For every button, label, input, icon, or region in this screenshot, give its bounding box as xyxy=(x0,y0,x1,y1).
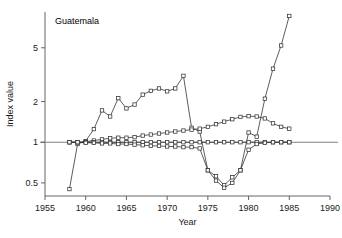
series-steep-rise-point xyxy=(141,93,144,96)
x-axis-label: Year xyxy=(178,217,196,227)
series-flat-unity-point xyxy=(214,141,217,144)
series-moderate-rise-point xyxy=(271,122,274,125)
series-moderate-rise-point xyxy=(141,134,144,137)
series-steep-rise-point xyxy=(174,87,177,90)
series-flat-unity-point xyxy=(222,141,225,144)
series-steep-rise xyxy=(68,14,291,191)
series-dip-point xyxy=(190,145,193,148)
series-dip-point xyxy=(288,141,291,144)
series-dip-point xyxy=(108,142,111,145)
series-dip-point xyxy=(222,186,225,189)
series-moderate-rise-point xyxy=(239,115,242,118)
series-dip-point xyxy=(157,144,160,147)
series-moderate-rise-point xyxy=(182,129,185,132)
series-flat-unity-point xyxy=(190,141,193,144)
series-dip-point xyxy=(68,141,71,144)
series-moderate-rise-point xyxy=(214,122,217,125)
series-moderate-rise-point xyxy=(198,127,201,130)
series-dip-point xyxy=(117,142,120,145)
series-dip-point xyxy=(279,141,282,144)
series-flat-unity-point xyxy=(239,141,242,144)
series-steep-rise-point xyxy=(92,127,95,130)
y-tick-label-0.5: 0.5 xyxy=(25,178,38,188)
series-steep-rise-point xyxy=(271,67,274,70)
series-moderate-rise-point xyxy=(108,137,111,140)
series-moderate-rise-point xyxy=(263,117,266,120)
series-flat-unity-point xyxy=(174,141,177,144)
series-flat-unity-point xyxy=(182,141,185,144)
y-tick-label-1: 1 xyxy=(33,137,38,147)
series-steep-rise-point xyxy=(149,89,152,92)
chart-title: Guatemala xyxy=(55,16,99,26)
series-dip-point xyxy=(165,145,168,148)
series-steep-rise-point xyxy=(133,103,136,106)
series-moderate-rise-point xyxy=(125,136,128,139)
chart-figure: 19551960196519701975198019851990Year0.51… xyxy=(0,0,342,238)
series-moderate-rise-point xyxy=(117,136,120,139)
line-chart: 19551960196519701975198019851990Year0.51… xyxy=(0,0,342,238)
series-dip xyxy=(68,141,291,190)
y-tick-label-5: 5 xyxy=(33,43,38,53)
series-moderate-rise-point xyxy=(190,128,193,131)
series-dip-point xyxy=(206,169,209,172)
series-dip-line xyxy=(69,142,289,188)
series-moderate-rise-point xyxy=(279,125,282,128)
series-moderate-rise-point xyxy=(222,120,225,123)
series-steep-rise-point xyxy=(288,14,291,17)
series-steep-rise-point xyxy=(125,107,128,110)
series-moderate-rise-point xyxy=(157,132,160,135)
series-flat-unity-point xyxy=(149,141,152,144)
series-steep-rise-point xyxy=(231,176,234,179)
series-flat-unity-point xyxy=(231,141,234,144)
series-steep-rise-point xyxy=(214,175,217,178)
series-dip-point xyxy=(149,144,152,147)
series-moderate-rise-point xyxy=(288,127,291,130)
series-dip-point xyxy=(255,142,258,145)
series-steep-rise-point xyxy=(157,87,160,90)
series-dip-point xyxy=(125,142,128,145)
series-dip-point xyxy=(214,179,217,182)
series-steep-rise-point xyxy=(100,109,103,112)
series-dip-point xyxy=(100,142,103,145)
series-dip-point xyxy=(92,141,95,144)
series-steep-rise-point xyxy=(108,115,111,118)
series-moderate-rise-point xyxy=(133,135,136,138)
x-tick-label-1970: 1970 xyxy=(157,203,177,213)
series-dip-point xyxy=(76,141,79,144)
series-steep-rise-point xyxy=(182,74,185,77)
series-steep-rise-point xyxy=(255,135,258,138)
x-tick-label-1955: 1955 xyxy=(35,203,55,213)
x-tick-label-1990: 1990 xyxy=(320,203,340,213)
series-moderate-rise-point xyxy=(247,114,250,117)
series-dip-point xyxy=(263,141,266,144)
series-dip-point xyxy=(84,141,87,144)
series-moderate-rise-point xyxy=(231,118,234,121)
series-flat-unity-point xyxy=(165,141,168,144)
series-steep-rise-point xyxy=(247,131,250,134)
series-dip-point xyxy=(239,169,242,172)
series-steep-rise-point xyxy=(263,97,266,100)
series-flat-unity-point xyxy=(247,141,250,144)
series-steep-rise-point xyxy=(117,96,120,99)
series-flat-unity-point xyxy=(157,141,160,144)
x-tick-label-1960: 1960 xyxy=(76,203,96,213)
series-dip-point xyxy=(182,145,185,148)
y-axis-label: Index value xyxy=(5,81,15,127)
series-steep-rise-line xyxy=(69,16,289,189)
x-tick-label-1980: 1980 xyxy=(239,203,259,213)
series-steep-rise-point xyxy=(165,90,168,93)
x-tick-label-1985: 1985 xyxy=(279,203,299,213)
series-steep-rise-point xyxy=(279,44,282,47)
x-tick-label-1965: 1965 xyxy=(116,203,136,213)
series-flat-unity-point xyxy=(206,141,209,144)
y-tick-label-2: 2 xyxy=(33,97,38,107)
series-dip-point xyxy=(141,144,144,147)
series-dip-point xyxy=(247,148,250,151)
x-tick-label-1975: 1975 xyxy=(198,203,218,213)
series-moderate-rise-point xyxy=(165,131,168,134)
series-moderate-rise-point xyxy=(255,115,258,118)
series-flat-unity-point xyxy=(198,141,201,144)
series-steep-rise-point xyxy=(68,187,71,190)
series-moderate-rise-point xyxy=(149,133,152,136)
series-moderate-rise-point xyxy=(174,130,177,133)
